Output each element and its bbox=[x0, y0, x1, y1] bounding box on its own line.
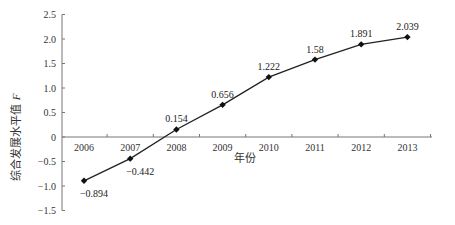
y-tick-label: 0 bbox=[51, 132, 56, 143]
x-tick-label: 2010 bbox=[259, 142, 279, 153]
y-tick-label: 0.5 bbox=[44, 107, 57, 118]
x-tick-label: 2011 bbox=[305, 142, 325, 153]
x-tick-label: 2013 bbox=[397, 142, 417, 153]
data-point-marker bbox=[219, 102, 225, 108]
data-point-label: 1.222 bbox=[258, 61, 281, 72]
data-point-marker bbox=[358, 41, 364, 47]
y-tick-label: −1.0 bbox=[38, 181, 56, 192]
data-point-label: 2.039 bbox=[396, 21, 419, 32]
x-tick-label: 2009 bbox=[213, 142, 233, 153]
data-labels: −0.894−0.4420.1540.6561.2221.581.8912.03… bbox=[80, 21, 419, 199]
y-tick-label: 1.0 bbox=[44, 83, 57, 94]
y-tick-label: 1.5 bbox=[44, 58, 57, 69]
x-tick-label: 2007 bbox=[120, 142, 140, 153]
y-tick-label: −1.5 bbox=[38, 205, 56, 216]
y-axis: 2.52.01.51.00.50−0.5−1.0−1.5 bbox=[38, 9, 65, 216]
data-point-label: 0.154 bbox=[165, 113, 188, 124]
data-point-label: 1.58 bbox=[306, 44, 324, 55]
y-tick-label: 2.0 bbox=[44, 34, 57, 45]
y-axis-title: 综合发展水平值 F bbox=[9, 93, 23, 181]
data-point-marker bbox=[312, 56, 318, 62]
x-axis: 20062007200820092010201120122013 bbox=[62, 134, 432, 153]
data-point-label: −0.894 bbox=[80, 188, 108, 199]
line-chart: 2.52.01.51.00.50−0.5−1.0−1.5 20062007200… bbox=[0, 0, 455, 225]
x-tick-label: 2008 bbox=[166, 142, 186, 153]
x-tick-label: 2006 bbox=[74, 142, 94, 153]
x-tick-label: 2012 bbox=[351, 142, 371, 153]
y-tick-label: 2.5 bbox=[44, 9, 57, 20]
data-point-label: 1.891 bbox=[350, 28, 373, 39]
data-point-marker bbox=[173, 126, 179, 132]
data-point-label: −0.442 bbox=[126, 166, 154, 177]
data-point-label: 0.656 bbox=[211, 89, 234, 100]
data-point-marker bbox=[81, 178, 87, 184]
y-tick-label: −0.5 bbox=[38, 156, 56, 167]
data-point-marker bbox=[266, 74, 272, 80]
data-point-marker bbox=[404, 34, 410, 40]
data-point-marker bbox=[127, 155, 133, 161]
x-axis-title: 年份 bbox=[234, 151, 256, 165]
